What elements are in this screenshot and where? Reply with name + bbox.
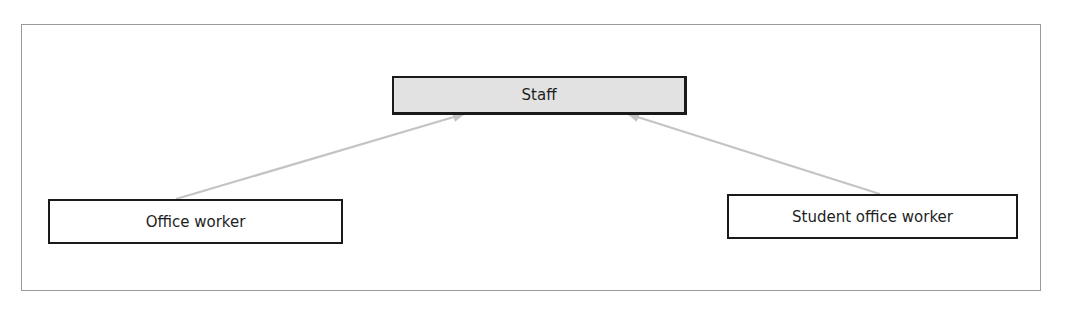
diagram-frame — [21, 24, 1041, 291]
node-student-office-worker[interactable]: Student office worker — [727, 194, 1018, 239]
node-office-worker[interactable]: Office worker — [48, 199, 343, 244]
node-staff-label: Staff — [522, 86, 557, 104]
node-student-office-worker-label: Student office worker — [792, 208, 953, 226]
node-staff[interactable]: Staff — [392, 76, 687, 115]
node-office-worker-label: Office worker — [146, 213, 246, 231]
